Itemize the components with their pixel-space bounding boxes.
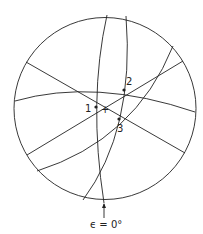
point-2-label: 2: [126, 76, 132, 87]
point-2-dot: [122, 88, 125, 91]
point-3-dot: [117, 117, 120, 120]
stereonet-diagram: 1 2 3 + ϵ = 0°: [0, 0, 203, 234]
point-1-dot: [94, 105, 97, 108]
center-marker: +: [101, 104, 109, 115]
point-1-label: 1: [85, 103, 91, 114]
diagram-canvas: 1 2 3 + ϵ = 0°: [0, 0, 203, 234]
arrow-head-icon: [102, 203, 106, 208]
epsilon-caption: ϵ = 0°: [90, 219, 122, 230]
point-3-label: 3: [117, 123, 123, 134]
